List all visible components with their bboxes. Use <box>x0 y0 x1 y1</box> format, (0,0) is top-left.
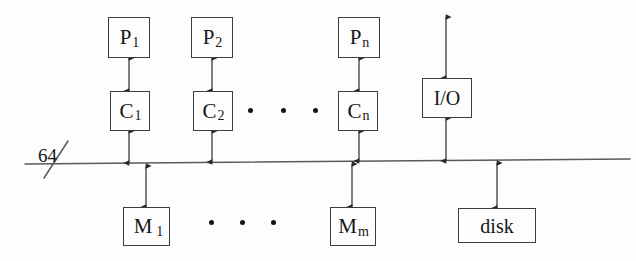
disk-unit: disk <box>458 208 536 243</box>
bus-width-label: 64 <box>38 146 57 165</box>
io-unit-label: I/O <box>434 88 461 108</box>
processor-p2-subscript: 2 <box>215 36 222 50</box>
ellipsis-memories-dot <box>209 220 214 225</box>
cache-c2-base: C <box>202 101 216 122</box>
cache-c2-subscript: 2 <box>218 109 225 123</box>
cache-cn-subscript: n <box>363 109 370 123</box>
cache-c1-base: C <box>119 101 133 122</box>
io-unit: I/O <box>422 78 472 118</box>
disk-unit-label: disk <box>480 216 513 236</box>
memory-m1-subscript: 1 <box>156 225 163 239</box>
processor-p2-base: P <box>203 27 215 48</box>
cache-c1-subscript: 1 <box>135 109 142 123</box>
system-bus <box>25 141 630 178</box>
diagram-canvas: 64 P1P2PnC1C2CnM1MmI/Odisk <box>0 0 636 261</box>
memory-mm-subscript: m <box>358 225 369 239</box>
cache-cn: Cn <box>338 91 378 131</box>
processor-p1: P1 <box>108 17 150 58</box>
memory-mm-base: M <box>338 216 357 237</box>
cache-cn-base: C <box>347 101 361 122</box>
processor-pn-base: P <box>350 27 362 48</box>
processor-p1-base: P <box>120 27 132 48</box>
cache-c2: C2 <box>193 91 233 131</box>
memory-mm: Mm <box>330 207 376 246</box>
processor-p2: P2 <box>191 17 233 58</box>
ellipsis-memories-dot <box>240 220 245 225</box>
ellipsis-processors-dot <box>313 108 318 113</box>
memory-m1-base: M <box>134 216 153 237</box>
diagram-vector-layer <box>0 0 636 261</box>
processor-pn: Pn <box>338 17 380 58</box>
ellipsis-processors-dot <box>248 108 253 113</box>
cache-c1: C1 <box>110 91 150 131</box>
memory-m1: M1 <box>123 207 170 246</box>
processor-pn-subscript: n <box>362 36 369 50</box>
ellipsis-processors-dot <box>281 108 286 113</box>
processor-p1-subscript: 1 <box>132 36 139 50</box>
system-bus-line <box>25 159 630 164</box>
ellipsis-memories-dot <box>271 220 276 225</box>
